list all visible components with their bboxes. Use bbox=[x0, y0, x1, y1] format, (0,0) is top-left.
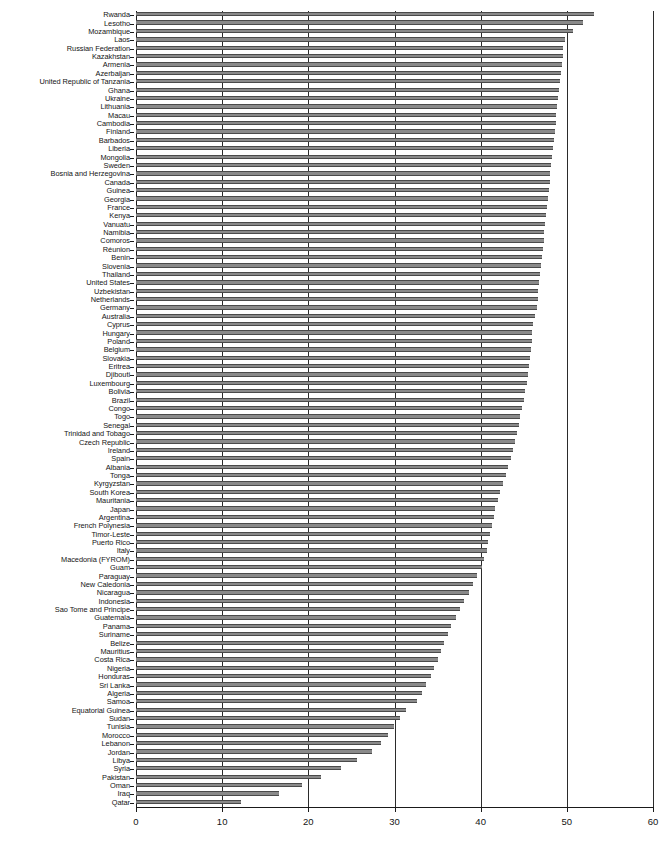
category-tick bbox=[130, 267, 134, 268]
bar-row bbox=[136, 229, 653, 237]
category-tick bbox=[130, 401, 134, 402]
bar-row bbox=[136, 706, 653, 714]
bar-row bbox=[136, 564, 653, 572]
category-label: United States bbox=[0, 279, 130, 286]
bar bbox=[136, 632, 448, 636]
bar-row bbox=[136, 86, 653, 94]
category-label: Puerto Rico bbox=[0, 539, 130, 546]
category-label: French Polynesia bbox=[0, 522, 130, 529]
bar-row bbox=[136, 648, 653, 656]
category-tick bbox=[130, 233, 134, 234]
bar-row bbox=[136, 480, 653, 488]
category-label: Argentina bbox=[0, 514, 130, 521]
category-tick bbox=[130, 803, 134, 804]
category-label: Mozambique bbox=[0, 28, 130, 35]
category-label: Belgium bbox=[0, 346, 130, 353]
category-tick bbox=[130, 518, 134, 519]
bar-row bbox=[136, 547, 653, 555]
category-label: Djibouti bbox=[0, 371, 130, 378]
category-tick bbox=[130, 283, 134, 284]
bar bbox=[136, 314, 535, 318]
bar bbox=[136, 330, 532, 334]
category-tick bbox=[130, 736, 134, 737]
category-label: Uzbekistan bbox=[0, 288, 130, 295]
category-tick bbox=[130, 367, 134, 368]
category-label: Suriname bbox=[0, 631, 130, 638]
x-tick-label: 40 bbox=[475, 816, 486, 827]
category-label: Cyprus bbox=[0, 321, 130, 328]
category-tick bbox=[130, 24, 134, 25]
bar bbox=[136, 691, 422, 695]
bar-row bbox=[136, 338, 653, 346]
category-tick bbox=[130, 250, 134, 251]
category-tick bbox=[130, 158, 134, 159]
bar bbox=[136, 775, 321, 779]
bar bbox=[136, 188, 549, 192]
bar bbox=[136, 389, 525, 393]
bar-row bbox=[136, 740, 653, 748]
bar bbox=[136, 339, 532, 343]
category-label: Syria bbox=[0, 765, 130, 772]
x-tick-10 bbox=[222, 807, 223, 812]
category-label: Iraq bbox=[0, 790, 130, 797]
category-tick bbox=[130, 141, 134, 142]
bar bbox=[136, 666, 434, 670]
bar bbox=[136, 733, 388, 737]
category-tick bbox=[130, 49, 134, 50]
bar bbox=[136, 71, 561, 75]
bar-row bbox=[136, 162, 653, 170]
bar-row bbox=[136, 522, 653, 530]
category-label: Lesotho bbox=[0, 20, 130, 27]
category-label: Russian Federation bbox=[0, 45, 130, 52]
bar-row bbox=[136, 321, 653, 329]
bar bbox=[136, 699, 417, 703]
bar bbox=[136, 213, 546, 217]
bar bbox=[136, 565, 482, 569]
bar-row bbox=[136, 137, 653, 145]
bar-row bbox=[136, 254, 653, 262]
bar bbox=[136, 297, 538, 301]
category-label: Canada bbox=[0, 179, 130, 186]
category-tick bbox=[130, 334, 134, 335]
bar bbox=[136, 155, 552, 159]
bar bbox=[136, 356, 530, 360]
bar-row bbox=[136, 681, 653, 689]
x-tick-label: 20 bbox=[303, 816, 314, 827]
category-tick bbox=[130, 350, 134, 351]
bar bbox=[136, 272, 540, 276]
bar-row bbox=[136, 288, 653, 296]
bar bbox=[136, 364, 529, 368]
category-tick bbox=[130, 652, 134, 653]
bar-row bbox=[136, 438, 653, 446]
category-tick bbox=[130, 292, 134, 293]
category-label: Namibia bbox=[0, 229, 130, 236]
bar bbox=[136, 766, 341, 770]
bar bbox=[136, 641, 444, 645]
bar bbox=[136, 800, 241, 804]
bar-row bbox=[136, 581, 653, 589]
bar-row bbox=[136, 179, 653, 187]
category-tick bbox=[130, 610, 134, 611]
category-tick bbox=[130, 32, 134, 33]
gridline-60 bbox=[653, 11, 654, 807]
bar-row bbox=[136, 271, 653, 279]
bars-layer bbox=[136, 11, 653, 807]
bar-row bbox=[136, 572, 653, 580]
category-label: Costa Rica bbox=[0, 656, 130, 663]
category-label: Guinea bbox=[0, 187, 130, 194]
category-tick bbox=[130, 660, 134, 661]
bar-row bbox=[136, 145, 653, 153]
bar bbox=[136, 783, 302, 787]
category-label: Macau bbox=[0, 112, 130, 119]
category-label: Brazil bbox=[0, 397, 130, 404]
category-label: Qatar bbox=[0, 799, 130, 806]
category-label: Mongolia bbox=[0, 154, 130, 161]
category-label: Germany bbox=[0, 304, 130, 311]
bar bbox=[136, 573, 477, 577]
category-tick bbox=[130, 384, 134, 385]
bar bbox=[136, 465, 508, 469]
bar-row bbox=[136, 606, 653, 614]
bar-row bbox=[136, 405, 653, 413]
bar-row bbox=[136, 656, 653, 664]
category-label: Slovakia bbox=[0, 355, 130, 362]
